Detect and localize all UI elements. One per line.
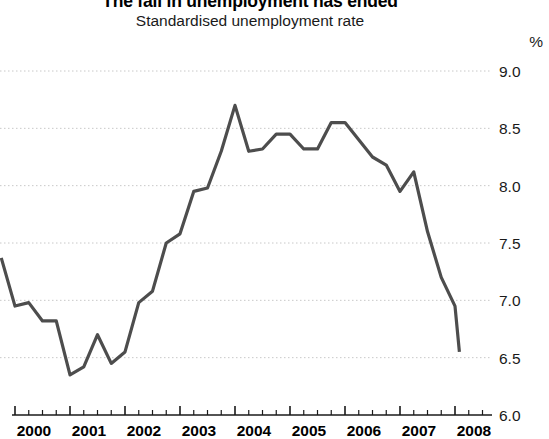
data-series-line bbox=[1, 105, 459, 374]
y-axis-unit-label: % bbox=[529, 33, 543, 51]
chart-container: The fall in unemployment has ended Stand… bbox=[0, 0, 549, 439]
y-axis-tick-label: 6.0 bbox=[499, 407, 521, 424]
series-line-unemployment-rate bbox=[1, 105, 459, 374]
x-axis-ticks bbox=[15, 406, 483, 415]
x-axis-tick-label: 2000 bbox=[17, 422, 51, 439]
x-axis-tick-label: 2008 bbox=[457, 422, 492, 439]
y-axis-tick-label: 7.0 bbox=[499, 292, 521, 309]
y-axis-tick-labels: 9.08.58.07.57.06.56.0 bbox=[499, 63, 521, 424]
x-axis-tick-label: 2001 bbox=[72, 422, 107, 439]
x-axis-tick-label: 2004 bbox=[237, 422, 272, 439]
y-axis-tick-label: 7.5 bbox=[499, 235, 521, 252]
x-axis-tick-label: 2002 bbox=[127, 422, 161, 439]
x-axis-tick-label: 2007 bbox=[402, 422, 436, 439]
y-axis-tick-label: 6.5 bbox=[499, 350, 521, 367]
chart-subtitle: Standardised unemployment rate bbox=[0, 12, 500, 30]
chart-title: The fall in unemployment has ended bbox=[0, 0, 500, 12]
y-axis-tick-label: 8.5 bbox=[499, 120, 521, 137]
x-axis-tick-labels: 200020012002200320042005200620072008 bbox=[17, 422, 492, 439]
y-axis-tick-label: 9.0 bbox=[499, 63, 521, 80]
x-axis-tick-label: 2003 bbox=[182, 422, 217, 439]
gridlines-group bbox=[0, 71, 492, 358]
x-axis-tick-label: 2005 bbox=[292, 422, 327, 439]
x-axis-tick-label: 2006 bbox=[347, 422, 382, 439]
y-axis-tick-label: 8.0 bbox=[499, 178, 521, 195]
chart-plot-area: 9.08.58.07.57.06.56.0 200020012002200320… bbox=[0, 0, 549, 439]
